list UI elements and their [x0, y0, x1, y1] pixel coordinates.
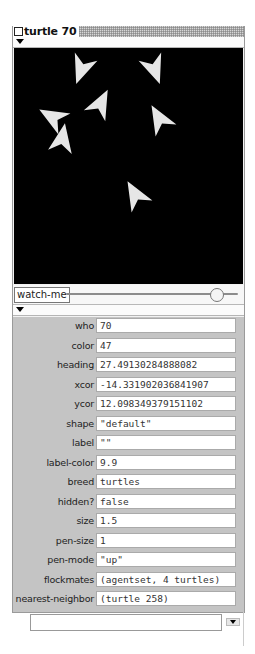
title-bar[interactable]: turtle 70 — [13, 26, 244, 37]
property-row-color: color47 — [13, 337, 244, 357]
property-value-field[interactable]: (agentset, 4 turtles) — [96, 572, 236, 587]
property-row-shape: shape"default" — [13, 415, 244, 435]
property-row-nearest-neighbor: nearest-neighbor(turtle 258) — [13, 590, 244, 610]
property-label: shape — [66, 418, 94, 429]
command-history-dropdown[interactable] — [226, 618, 240, 626]
property-label: flockmates — [44, 574, 94, 585]
turtle-shape[interactable] — [65, 53, 97, 88]
view-disclosure-row[interactable] — [13, 37, 244, 48]
property-value-field[interactable]: 9.9 — [96, 455, 236, 470]
property-value-field[interactable]: -14.331902036841907 — [96, 377, 236, 392]
property-value-field[interactable]: false — [96, 494, 236, 509]
property-value-field[interactable]: (turtle 258) — [96, 591, 236, 606]
properties-disclosure-row[interactable] — [13, 305, 244, 316]
property-label: nearest-neighbor — [16, 593, 94, 604]
properties-panel: who70color47heading27.49130284888082xcor… — [13, 317, 244, 612]
property-label: who — [75, 320, 94, 331]
property-row-flockmates: flockmates(agentset, 4 turtles) — [13, 571, 244, 591]
property-row-xcor: xcor-14.331902036841907 — [13, 376, 244, 396]
disclosure-triangle-icon[interactable] — [16, 39, 24, 44]
property-row-hidden: hidden?false — [13, 493, 244, 513]
property-value-field[interactable]: "" — [96, 435, 236, 450]
property-value-field[interactable]: 1.5 — [96, 513, 236, 528]
property-row-breed: breedturtles — [13, 473, 244, 493]
property-value-field[interactable]: 1 — [96, 533, 236, 548]
property-row-who: who70 — [13, 317, 244, 337]
property-label: size — [76, 515, 94, 526]
property-label: pen-mode — [47, 554, 94, 565]
close-box-icon[interactable] — [14, 27, 23, 36]
turtle-canvas — [14, 48, 243, 284]
turtle-shape[interactable] — [84, 84, 119, 121]
window-title: turtle 70 — [24, 26, 76, 37]
property-value-field[interactable]: 27.49130284888082 — [96, 357, 236, 372]
property-row-label: label"" — [13, 434, 244, 454]
turtle-shape[interactable] — [141, 99, 176, 136]
zoom-slider-knob[interactable] — [210, 288, 224, 302]
turtle-inspector-window: turtle 70 watch-me who70color47heading27… — [12, 26, 245, 613]
turtle-shape[interactable] — [139, 53, 171, 88]
command-input[interactable] — [30, 614, 222, 631]
property-label: hidden? — [58, 496, 94, 507]
property-value-field[interactable]: "default" — [96, 416, 236, 431]
property-row-pen-mode: pen-mode"up" — [13, 551, 244, 571]
property-row-heading: heading27.49130284888082 — [13, 356, 244, 376]
property-value-field[interactable]: 70 — [96, 318, 236, 333]
watch-me-button[interactable]: watch-me — [14, 287, 70, 303]
property-label: xcor — [74, 379, 94, 390]
property-label: pen-size — [56, 535, 94, 546]
property-label: color — [72, 340, 94, 351]
disclosure-triangle-icon[interactable] — [16, 307, 24, 312]
agent-view[interactable] — [14, 48, 243, 284]
watch-row: watch-me — [13, 285, 244, 305]
property-label: breed — [68, 476, 94, 487]
property-row-ycor: ycor12.098349379151102 — [13, 395, 244, 415]
property-label: label — [72, 437, 94, 448]
property-row-pen-size: pen-size1 — [13, 532, 244, 552]
property-row-size: size1.5 — [13, 512, 244, 532]
property-value-field[interactable]: 47 — [96, 338, 236, 353]
property-label: heading — [57, 359, 94, 370]
property-value-field[interactable]: 12.098349379151102 — [96, 396, 236, 411]
divider — [243, 612, 244, 646]
turtle-shape[interactable] — [117, 175, 152, 212]
title-tab: turtle 70 — [13, 26, 79, 37]
property-value-field[interactable]: turtles — [96, 474, 236, 489]
property-row-label-color: label-color9.9 — [13, 454, 244, 474]
chevron-down-icon — [230, 620, 236, 624]
property-label: label-color — [46, 457, 94, 468]
property-label: ycor — [74, 398, 94, 409]
property-value-field[interactable]: "up" — [96, 552, 236, 567]
